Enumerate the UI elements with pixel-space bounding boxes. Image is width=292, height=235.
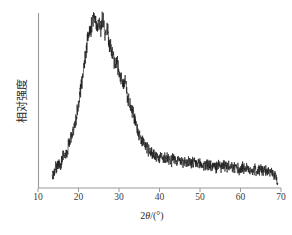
x-tick-label: 20 [74,192,84,202]
y-axis-title: 相对强度 [15,79,29,123]
x-tick-label: 30 [114,192,124,202]
x-tick-label: 60 [236,192,246,202]
x-tick-label: 70 [276,192,286,202]
figure-background [0,0,292,235]
x-tick-label: 40 [155,192,165,202]
x-axis-title: 2θ/(°) [140,210,163,222]
y-axis-title-group: 相对强度 [15,79,29,123]
xrd-figure: 10203040506070 2θ/(°) 相对强度 [0,0,292,235]
x-tick-label: 50 [195,192,205,202]
x-tick-label: 10 [33,192,43,202]
xrd-plot: 10203040506070 2θ/(°) 相对强度 [0,0,292,235]
